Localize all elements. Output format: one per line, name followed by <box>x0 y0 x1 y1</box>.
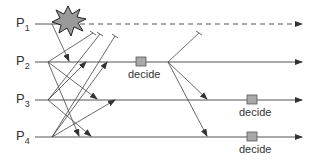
messages-from-p4 <box>52 34 118 137</box>
process-label-p3: P3 <box>16 91 30 109</box>
process-name: P <box>16 91 25 106</box>
process-label-p2: P2 <box>16 53 30 71</box>
process-name: P <box>16 128 25 143</box>
process-label-p1: P1 <box>16 15 30 33</box>
crash-star-icon <box>52 6 86 36</box>
messages-from-p2-after-decide <box>168 31 207 136</box>
process-subscript: 3 <box>25 99 30 109</box>
process-subscript: 2 <box>25 61 30 71</box>
process-subscript: 1 <box>25 23 30 33</box>
message-sequence-diagram <box>0 0 320 164</box>
process-name: P <box>16 15 25 30</box>
decide-label-p4: decide <box>239 143 271 155</box>
decide-box-p3 <box>247 95 257 104</box>
decide-box-p4 <box>247 132 257 141</box>
messages-from-p3 <box>48 32 103 136</box>
process-subscript: 4 <box>25 136 30 146</box>
decide-label-p3: decide <box>239 106 271 118</box>
process-label-p4: P4 <box>16 128 30 146</box>
decide-label-p2: decide <box>128 68 160 80</box>
process-name: P <box>16 53 25 68</box>
decide-box-p2 <box>136 57 146 66</box>
